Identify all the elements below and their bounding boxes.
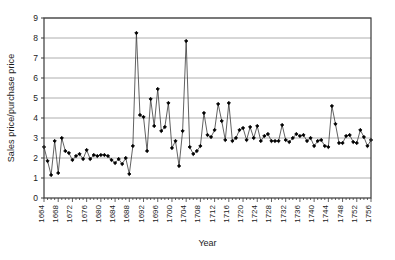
- data-point-marker: [227, 101, 230, 104]
- x-tick-label: 1668: [51, 204, 60, 222]
- x-tick-label: 1684: [108, 204, 117, 222]
- x-tick-label: 1676: [80, 204, 89, 222]
- data-point-marker: [53, 139, 56, 142]
- x-tick-label: 1704: [179, 204, 188, 222]
- x-tick-label: 1672: [65, 204, 74, 222]
- data-point-marker: [252, 136, 255, 139]
- data-point-marker: [355, 141, 358, 144]
- data-point-marker: [103, 153, 106, 156]
- data-point-marker: [359, 128, 362, 131]
- x-tick-label: 1736: [293, 204, 302, 222]
- data-point-marker: [323, 144, 326, 147]
- data-point-marker: [280, 123, 283, 126]
- data-point-marker: [170, 146, 173, 149]
- data-point-marker: [327, 145, 330, 148]
- data-point-marker: [85, 148, 88, 151]
- data-point-marker: [188, 145, 191, 148]
- line-chart-plot: 0123456789 16641668167216761680168416881…: [0, 0, 395, 260]
- data-point-marker: [302, 133, 305, 136]
- data-point-marker: [337, 141, 340, 144]
- data-point-marker: [284, 138, 287, 141]
- x-tick-label: 1712: [208, 204, 217, 222]
- data-point-marker: [334, 122, 337, 125]
- data-point-marker: [131, 144, 134, 147]
- plot-border: [44, 18, 371, 198]
- data-point-marker: [60, 136, 63, 139]
- data-point-marker: [145, 149, 148, 152]
- data-point-marker: [241, 126, 244, 129]
- y-tick-label: 3: [33, 133, 38, 143]
- y-tick-label: 5: [33, 93, 38, 103]
- data-point-marker: [135, 31, 138, 34]
- y-axis-ticks: 0123456789: [33, 13, 44, 203]
- x-tick-label: 1724: [250, 204, 259, 222]
- y-tick-label: 1: [33, 173, 38, 183]
- data-series: [42, 31, 372, 176]
- data-point-marker: [245, 138, 248, 141]
- x-tick-label: 1664: [37, 204, 46, 222]
- data-point-marker: [167, 101, 170, 104]
- y-tick-label: 8: [33, 33, 38, 43]
- x-tick-label: 1732: [279, 204, 288, 222]
- data-point-marker: [238, 128, 241, 131]
- y-tick-label: 6: [33, 73, 38, 83]
- data-point-marker: [266, 132, 269, 135]
- data-point-marker: [181, 129, 184, 132]
- x-tick-label: 1680: [94, 204, 103, 222]
- x-tick-label: 1692: [137, 204, 146, 222]
- x-tick-label: 1708: [193, 204, 202, 222]
- data-point-marker: [177, 164, 180, 167]
- y-tick-label: 0: [33, 193, 38, 203]
- x-tick-label: 1744: [321, 204, 330, 222]
- data-point-marker: [57, 171, 60, 174]
- data-point-marker: [174, 139, 177, 142]
- x-tick-label: 1716: [222, 204, 231, 222]
- data-point-marker: [256, 124, 259, 127]
- data-point-marker: [124, 156, 127, 159]
- y-tick-label: 4: [33, 113, 38, 123]
- data-point-marker: [352, 140, 355, 143]
- x-tick-label: 1740: [307, 204, 316, 222]
- data-point-marker: [248, 125, 251, 128]
- x-axis-label: Year: [44, 238, 371, 248]
- data-point-marker: [277, 139, 280, 142]
- data-point-marker: [320, 138, 323, 141]
- data-point-marker: [46, 159, 49, 162]
- data-point-marker: [206, 133, 209, 136]
- data-point-marker: [344, 134, 347, 137]
- data-point-marker: [273, 139, 276, 142]
- data-point-marker: [49, 173, 52, 176]
- data-point-marker: [216, 102, 219, 105]
- x-tick-label: 1720: [236, 204, 245, 222]
- data-point-marker: [348, 133, 351, 136]
- data-point-marker: [96, 154, 99, 157]
- data-point-marker: [366, 144, 369, 147]
- data-point-marker: [99, 153, 102, 156]
- x-tick-label: 1696: [151, 204, 160, 222]
- x-tick-label: 1700: [165, 204, 174, 222]
- x-tick-label: 1748: [336, 204, 345, 222]
- data-point-marker: [298, 134, 301, 137]
- x-tick-label: 1752: [350, 204, 359, 222]
- data-point-marker: [156, 87, 159, 90]
- data-point-marker: [202, 111, 205, 114]
- data-point-marker: [138, 113, 141, 116]
- data-point-marker: [152, 124, 155, 127]
- y-tick-label: 2: [33, 153, 38, 163]
- data-point-marker: [184, 39, 187, 42]
- plot-frame: [44, 18, 371, 198]
- y-tick-label: 9: [33, 13, 38, 23]
- chart-container: Sales price/purchase price 0123456789 16…: [0, 0, 395, 260]
- data-point-marker: [220, 119, 223, 122]
- data-point-marker: [128, 172, 131, 175]
- x-tick-label: 1688: [122, 204, 131, 222]
- data-point-marker: [330, 104, 333, 107]
- y-tick-label: 7: [33, 53, 38, 63]
- data-point-marker: [213, 128, 216, 131]
- data-point-marker: [64, 149, 67, 152]
- data-point-marker: [341, 141, 344, 144]
- data-point-marker: [67, 151, 70, 154]
- x-tick-label: 1756: [364, 204, 373, 222]
- x-axis-ticks: 1664166816721676168016841688169216961700…: [37, 198, 373, 223]
- data-point-marker: [270, 139, 273, 142]
